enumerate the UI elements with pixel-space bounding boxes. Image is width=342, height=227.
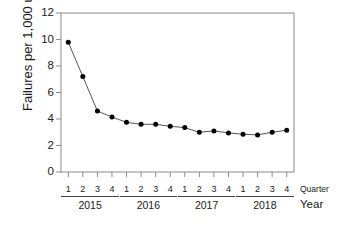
x-axis-quarter-label: 1 (236, 185, 250, 194)
x-axis-quarter-label: 1 (120, 185, 134, 194)
x-axis-quarter-label: 1 (178, 185, 192, 194)
x-axis-year-label: 2015 (70, 200, 110, 211)
data-point-marker (197, 130, 202, 135)
x-axis-quarter-label: 1 (61, 185, 75, 194)
data-series-line (68, 42, 286, 135)
x-axis-quarter-label: 3 (149, 185, 163, 194)
data-point-marker (80, 74, 85, 79)
year-group-rule (61, 196, 119, 197)
year-group-rule (236, 196, 294, 197)
axis-row-label-year: Year (300, 199, 323, 211)
data-point-marker (211, 128, 216, 133)
data-point-marker (168, 124, 173, 129)
x-axis-quarter-label: 3 (265, 185, 279, 194)
x-axis-quarter-label: 4 (163, 185, 177, 194)
data-point-marker (153, 122, 158, 127)
x-axis-year-label: 2016 (128, 200, 168, 211)
x-axis-quarter-label: 4 (280, 185, 294, 194)
x-axis-quarter-label: 4 (105, 185, 119, 194)
data-point-marker (284, 128, 289, 133)
data-point-marker (95, 109, 100, 114)
x-axis-quarter-label: 2 (192, 185, 206, 194)
data-point-marker (109, 115, 114, 120)
data-point-marker (139, 122, 144, 127)
chart-container: Failures per 1,000 units 024681012 12342… (0, 0, 342, 227)
x-axis-quarter-label: 4 (221, 185, 235, 194)
x-axis-quarter-label: 3 (207, 185, 221, 194)
x-axis-quarter-label: 2 (134, 185, 148, 194)
x-axis-year-label: 2017 (187, 200, 227, 211)
x-axis-quarter-label: 2 (251, 185, 265, 194)
data-point-marker (124, 120, 129, 125)
data-point-marker (182, 125, 187, 130)
data-point-marker (226, 130, 231, 135)
plot-frame (61, 13, 294, 172)
x-axis-year-label: 2018 (245, 200, 285, 211)
data-point-marker (66, 40, 71, 45)
year-group-rule (178, 196, 236, 197)
x-axis-quarter-label: 3 (90, 185, 104, 194)
year-group-rule (120, 196, 178, 197)
x-axis-quarter-label: 2 (76, 185, 90, 194)
data-point-marker (255, 132, 260, 137)
data-point-marker (270, 130, 275, 135)
data-point-marker (241, 132, 246, 137)
axis-row-label-quarter: Quarter (300, 185, 329, 194)
